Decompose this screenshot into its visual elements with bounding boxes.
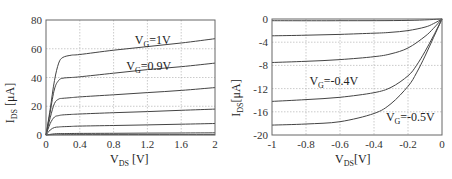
right-x-axis-label: VDS[V] bbox=[335, 152, 371, 168]
x-tick-label: 1.6 bbox=[174, 138, 188, 150]
curve-vg0.7v bbox=[46, 109, 215, 135]
left-x-tick-labels: 00.40.81.21.62 bbox=[43, 138, 218, 150]
curve-annotation: VG=0.9V bbox=[126, 59, 171, 75]
x-tick-label: 2 bbox=[212, 138, 218, 150]
curve-vg-0.4v bbox=[272, 19, 442, 101]
y-tick-label: -20 bbox=[253, 129, 268, 141]
x-tick-label: -0.6 bbox=[331, 138, 349, 150]
curve-vg1v bbox=[46, 39, 215, 135]
x-tick-label: -0.4 bbox=[365, 138, 383, 150]
curve-vg-0.2v bbox=[272, 19, 442, 36]
y-tick-label: -8 bbox=[259, 59, 269, 71]
y-tick-label: 60 bbox=[31, 43, 43, 55]
curve-annotation: VG=-0.4V bbox=[309, 74, 358, 90]
y-tick-label: 0 bbox=[263, 13, 269, 25]
x-tick-label: -0.2 bbox=[399, 138, 416, 150]
x-tick-label: 0 bbox=[439, 138, 445, 150]
y-tick-label: 0 bbox=[37, 129, 43, 141]
left-y-tick-labels: 020406080 bbox=[31, 14, 43, 141]
x-tick-label: -1 bbox=[267, 138, 276, 150]
y-tick-label: 40 bbox=[31, 72, 43, 84]
x-tick-label: 0.8 bbox=[107, 138, 121, 150]
left-y-axis-label: IDS [μA] bbox=[3, 83, 19, 123]
curve-annotation: VG=1V bbox=[135, 33, 171, 49]
y-tick-label: -4 bbox=[259, 36, 269, 48]
right-y-axis-label: IDS[μA] bbox=[229, 79, 245, 116]
y-tick-label: 20 bbox=[31, 100, 43, 112]
right-y-tick-labels: 0-4-8-12-16-20 bbox=[253, 13, 268, 141]
x-tick-label: 0.4 bbox=[73, 138, 87, 150]
right-x-tick-labels: -1-0.8-0.6-0.4-0.20 bbox=[267, 138, 445, 150]
left-x-axis-label: VDS [V] bbox=[110, 152, 149, 168]
curve-vg0.8v bbox=[46, 88, 215, 135]
figure: 00.40.81.21.62 020406080 VG=1VVG=0.9V VD… bbox=[0, 0, 452, 179]
right-annotations: VG=-0.4VVG=-0.5V bbox=[309, 74, 435, 126]
y-tick-label: 80 bbox=[31, 14, 43, 26]
curve-vg-0.3v bbox=[272, 19, 442, 63]
right-chart-p-channel-characteristics: -1-0.8-0.6-0.4-0.20 0-4-8-12-16-20 VG=-0… bbox=[229, 13, 445, 168]
y-tick-label: -12 bbox=[253, 83, 268, 95]
x-tick-label: 0 bbox=[43, 138, 49, 150]
y-tick-label: -16 bbox=[253, 106, 268, 118]
x-tick-label: -0.8 bbox=[297, 138, 315, 150]
left-annotations: VG=1VVG=0.9V bbox=[126, 33, 171, 75]
left-curves bbox=[46, 39, 215, 135]
curve-annotation: VG=-0.5V bbox=[386, 110, 435, 126]
x-tick-label: 1.2 bbox=[141, 138, 155, 150]
left-chart-output-characteristics: 00.40.81.21.62 020406080 VG=1VVG=0.9V VD… bbox=[3, 14, 218, 168]
